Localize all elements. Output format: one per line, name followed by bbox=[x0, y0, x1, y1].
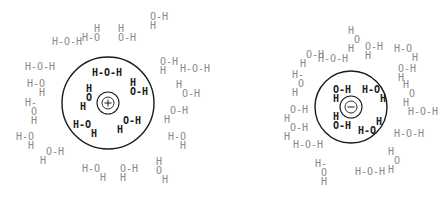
water-molecule: H-O-H bbox=[92, 67, 122, 78]
water-molecule: HH-O bbox=[82, 23, 100, 43]
water-molecule: H OH bbox=[80, 83, 92, 112]
water-molecule: H-O-H bbox=[180, 63, 210, 74]
hydration-diagram: H-O-H H OHHO-HH-O H O-HH H-O-H HH-OHO-HO… bbox=[0, 0, 445, 202]
cation-hydration-sphere: H-O-H H OHHO-HH-O H O-HH H-O-H HH-OHO-HO… bbox=[16, 11, 210, 185]
water-molecule: O-HH bbox=[365, 41, 383, 61]
cation-outer-water-molecules: H-O-H HH-OHO-HO-HHH-O-HH-O HH- O HH-O H … bbox=[16, 11, 210, 185]
water-molecule: H-O-H bbox=[394, 128, 424, 139]
water-molecule: H OH bbox=[388, 146, 400, 175]
water-molecule: H-O-H bbox=[408, 106, 438, 117]
water-molecule: O-HH bbox=[40, 146, 64, 166]
water-molecule: H-O-H bbox=[318, 53, 348, 64]
water-molecule: H-O-H bbox=[25, 61, 55, 72]
water-molecule: HO H bbox=[156, 156, 168, 185]
water-molecule: O-HH bbox=[117, 115, 141, 135]
water-molecule: H-O H bbox=[362, 84, 386, 104]
water-molecule: H- O H bbox=[315, 158, 327, 187]
plus-sign-icon bbox=[105, 100, 112, 107]
anion-outer-water-molecules: O-HHH-O-HH OHO-HHH- OHH-O HO-HHH OHH-O-H… bbox=[284, 25, 438, 187]
water-molecule: H-O H bbox=[27, 78, 45, 98]
water-molecule: H-O H bbox=[394, 43, 418, 63]
water-molecule: H-O-H bbox=[355, 166, 385, 177]
water-molecule: H- O H bbox=[25, 97, 37, 126]
water-molecule: H-O-H bbox=[52, 36, 82, 47]
water-molecule: O-HH bbox=[150, 11, 168, 31]
water-molecule: H-O H bbox=[73, 119, 97, 139]
water-molecule: HO-H bbox=[130, 77, 148, 97]
water-molecule: O-HH bbox=[120, 163, 138, 183]
water-molecule: H-O-H bbox=[293, 139, 323, 150]
water-molecule: H-O H bbox=[82, 163, 106, 183]
water-molecule: H OH bbox=[403, 79, 415, 108]
water-molecule: H-O H bbox=[168, 131, 186, 151]
water-molecule: O-HH bbox=[164, 105, 188, 125]
water-molecule: H-O H bbox=[16, 131, 34, 151]
water-molecule: HO-H bbox=[118, 23, 136, 43]
water-molecule: O-HH bbox=[160, 56, 178, 76]
anion-hydration-sphere: O-HHH-O HHO-H HH-O O-HHH-O-HH OHO-HHH- O… bbox=[284, 25, 438, 187]
water-molecule: H- OH bbox=[292, 69, 304, 98]
water-molecule: O-HH bbox=[284, 104, 308, 124]
water-molecule: H O-H bbox=[176, 79, 200, 99]
water-molecule: HH-O bbox=[358, 116, 382, 136]
water-molecule: H OH bbox=[348, 25, 360, 54]
